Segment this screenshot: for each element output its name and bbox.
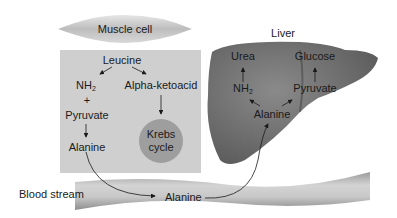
- leucine-label: Leucine: [103, 54, 142, 66]
- muscle-cell-label: Muscle cell: [98, 23, 152, 35]
- muscle-pyruvate-label: Pyruvate: [65, 109, 108, 121]
- liver-pyruvate-label: Pyruvate: [293, 82, 336, 94]
- blood-alanine-label: Alanine: [165, 191, 202, 203]
- muscle-alanine-label: Alanine: [69, 141, 106, 153]
- blood-vessel: [75, 172, 370, 210]
- muscle-nh2-label: NH2: [76, 79, 96, 95]
- nh2-text: NH: [233, 82, 249, 94]
- glucose-label: Glucose: [295, 50, 335, 62]
- liver-alanine-label: Alanine: [254, 108, 291, 120]
- krebs-label-line1: Krebs: [147, 128, 176, 140]
- nh2-subscript: 2: [249, 88, 253, 95]
- alpha-ketoacid-label: Alpha-ketoacid: [125, 79, 198, 91]
- krebs-label-line2: cycle: [148, 141, 173, 153]
- blood-stream-label: Blood stream: [19, 188, 84, 200]
- nh2-subscript: 2: [92, 85, 96, 92]
- urea-label: Urea: [231, 50, 255, 62]
- liver-nh2-label: NH2: [233, 82, 253, 98]
- nh2-text: NH: [76, 79, 92, 91]
- plus-label: +: [84, 94, 90, 106]
- liver-title: Liver: [271, 27, 295, 39]
- diagram-graphics: [0, 0, 397, 218]
